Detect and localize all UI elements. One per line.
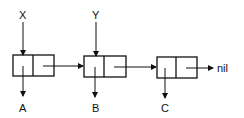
car-label-b: B [92,102,99,114]
pointer-label-x: X [19,9,27,21]
car-label-c: C [161,102,169,114]
pointer-label-y: Y [92,9,100,21]
nil-label: nil [217,62,228,74]
linked-list-diagram: X Y A B C nil [0,0,244,118]
car-label-a: A [19,102,27,114]
